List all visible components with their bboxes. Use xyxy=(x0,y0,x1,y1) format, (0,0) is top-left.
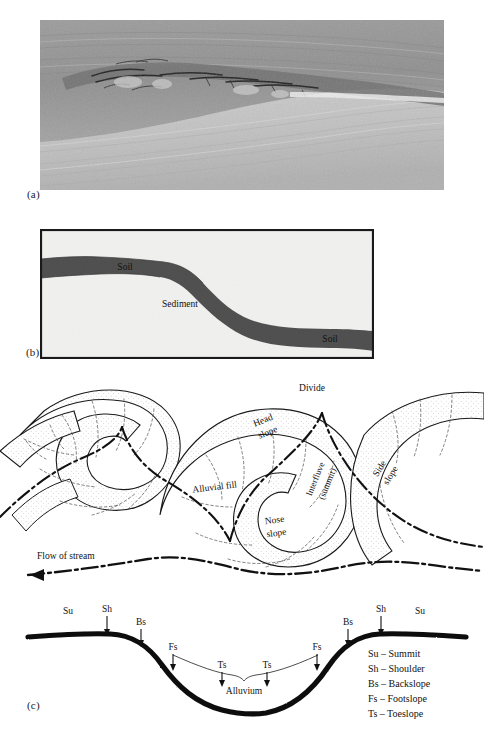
legend-line-toeslope: Ts – Toeslope xyxy=(368,708,424,719)
marker-ts-left: Ts xyxy=(218,660,227,670)
arrow-ts-left-icon xyxy=(219,672,225,687)
marker-sh-left: Sh xyxy=(102,604,112,614)
panel-c-catena: Alluvium Su Sh Bs Fs Ts xyxy=(0,595,484,738)
panel-meander-planview: Divide Head slope Interfluve (summit) Si… xyxy=(0,375,484,595)
label-interfluve-summit: Interfluve (summit) xyxy=(304,461,339,503)
catena-diagram: Alluvium Su Sh Bs Fs Ts xyxy=(0,595,484,738)
marker-bs-right: Bs xyxy=(343,617,353,627)
label-nose-slope: Nose slope xyxy=(264,514,287,540)
legend-line-footslope: Fs – Footslope xyxy=(368,693,427,704)
flow-arrow-icon xyxy=(30,569,44,581)
arrow-ts-right-icon xyxy=(264,672,270,687)
marker-su-right: Su xyxy=(415,606,425,616)
marker-fs-left: Fs xyxy=(169,642,178,652)
panel-a-photograph xyxy=(40,20,444,190)
arrow-fs-left-icon xyxy=(170,654,176,671)
legend-line-summit: Su – Summit xyxy=(368,648,420,659)
panel-b-schematic: Soil Sediment Soil xyxy=(40,229,374,359)
alluvium-surface-line xyxy=(173,655,318,681)
position-marker-group: Su Sh Bs Fs Ts xyxy=(63,604,425,687)
legend-line-shoulder: Sh – Shoulder xyxy=(368,663,425,674)
label-soil-upper: Soil xyxy=(117,262,133,272)
marker-bs-left: Bs xyxy=(136,617,146,627)
meander-diagram: Divide Head slope Interfluve (summit) Si… xyxy=(0,375,484,595)
label-alluvial-fill: Alluvial fill xyxy=(192,479,238,494)
marker-ts-right: Ts xyxy=(263,660,272,670)
marker-su-left: Su xyxy=(63,606,73,616)
photo-image xyxy=(40,20,444,190)
label-alluvium: Alluvium xyxy=(226,686,263,696)
svg-text:slope: slope xyxy=(266,527,287,540)
label-divide: Divide xyxy=(299,383,325,393)
panel-letter-c: (c) xyxy=(27,699,40,711)
catena-legend: Su – Summit Sh – Shoulder Bs – Backslope… xyxy=(368,648,431,719)
label-sediment: Sediment xyxy=(162,299,198,309)
label-soil-lower: Soil xyxy=(322,334,338,344)
svg-text:Alluvial fill: Alluvial fill xyxy=(192,479,238,494)
panel-letter-b: (b) xyxy=(26,346,39,358)
label-flow-of-stream: Flow of stream xyxy=(37,551,95,561)
marker-sh-right: Sh xyxy=(376,604,386,614)
legend-line-backslope: Bs – Backslope xyxy=(368,678,431,689)
panel-letter-a: (a) xyxy=(27,188,40,200)
marker-fs-right: Fs xyxy=(313,642,322,652)
schematic-diagram: Soil Sediment Soil xyxy=(40,229,374,359)
svg-text:Nose: Nose xyxy=(264,514,285,527)
